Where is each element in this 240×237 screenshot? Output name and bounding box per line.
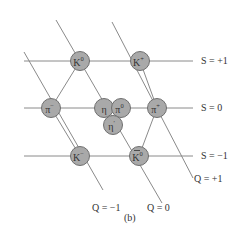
particle-node: K+	[131, 52, 150, 71]
meson-octet-diagram: K0K+π−ηπ0π+η′K−K0 S = +1 S = 0 S = −1 Q …	[0, 0, 240, 237]
charge-line	[24, 52, 103, 190]
figure-caption: (b)	[124, 212, 136, 224]
particle-node: K0	[71, 52, 90, 71]
label-s-plus-1: S = +1	[201, 55, 228, 66]
particle-node: π+	[148, 99, 167, 118]
label-q-plus-1: Q = +1	[194, 173, 223, 184]
label-s-minus-1: S = −1	[201, 150, 228, 161]
particle-node: K−	[71, 147, 90, 166]
particle-node: η	[95, 99, 114, 118]
particle-node: π0	[112, 99, 131, 118]
particle-node: K0	[130, 147, 149, 166]
particle-symbol: η	[101, 103, 106, 114]
label-s-zero: S = 0	[201, 102, 222, 113]
particle-node: π−	[42, 99, 61, 118]
particles: K0K+π−ηπ0π+η′K−K0	[42, 52, 167, 166]
label-q-minus-1: Q = −1	[92, 202, 121, 213]
label-q-zero: Q = 0	[147, 202, 170, 213]
particle-node: η′	[104, 116, 123, 135]
